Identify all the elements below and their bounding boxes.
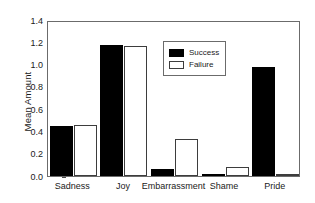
legend-item-failure: Failure bbox=[169, 59, 219, 70]
bar-sadness-failure bbox=[74, 125, 97, 176]
y-tick-label: 0.6 bbox=[19, 106, 43, 115]
outlined-white-swatch bbox=[169, 61, 184, 69]
y-tick-label: 1.4 bbox=[19, 17, 43, 26]
bar-chart: Mean Amount 0.00.20.40.60.81.01.21.4 Sad… bbox=[0, 0, 315, 203]
bar-pride-success bbox=[252, 67, 275, 176]
legend-label: Failure bbox=[189, 61, 213, 69]
y-tick-label: 1.2 bbox=[19, 39, 43, 48]
legend-item-success: Success bbox=[169, 47, 219, 58]
y-tick-label: 0.2 bbox=[19, 150, 43, 159]
bar-pride-failure bbox=[276, 174, 299, 176]
bar-shame-failure bbox=[226, 167, 249, 176]
bar-embarrassment-success bbox=[151, 169, 174, 176]
bar-joy-success bbox=[100, 45, 123, 176]
x-tick-label-shame: Shame bbox=[210, 181, 239, 192]
bar-joy-failure bbox=[124, 46, 147, 176]
x-tick-label-pride: Pride bbox=[264, 181, 285, 192]
x-tick-label-joy: Joy bbox=[116, 181, 130, 192]
x-tick-label-embarrassment: Embarrassment bbox=[142, 181, 206, 192]
y-tick-label: 0.4 bbox=[19, 128, 43, 137]
y-tick-label: 1.0 bbox=[19, 61, 43, 70]
y-axis-tick-labels: 0.00.20.40.60.81.01.21.4 bbox=[19, 21, 43, 177]
y-tick-label: 0.0 bbox=[19, 173, 43, 182]
bar-sadness-success bbox=[50, 126, 73, 176]
x-tick-label-sadness: Sadness bbox=[55, 181, 90, 192]
y-tick-label: 0.8 bbox=[19, 83, 43, 92]
filled-black-swatch bbox=[169, 49, 184, 57]
bar-shame-success bbox=[202, 174, 225, 176]
x-axis-tick-labels: SadnessJoyEmbarrassmentShamePride bbox=[47, 181, 300, 197]
bar-embarrassment-failure bbox=[175, 139, 198, 176]
chart-legend: SuccessFailure bbox=[163, 41, 226, 76]
legend-label: Success bbox=[189, 49, 219, 57]
y-tick-mark bbox=[62, 177, 66, 178]
